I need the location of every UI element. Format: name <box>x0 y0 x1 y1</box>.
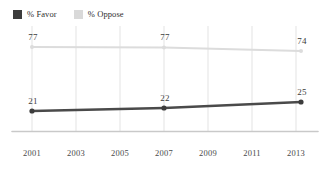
square-swatch-icon <box>13 10 22 19</box>
x-tick-2005: 2005 <box>111 148 129 159</box>
x-tick-2011: 2011 <box>243 148 261 159</box>
x-tick-2007: 2007 <box>155 148 173 159</box>
data-point-oppose-2014 <box>299 49 303 53</box>
data-point-oppose-2001 <box>30 45 34 49</box>
line-chart: % Favor % Oppose <box>0 0 329 169</box>
x-tick-2001: 2001 <box>23 148 41 159</box>
x-tick-2003: 2003 <box>67 148 85 159</box>
data-label-oppose-2014: 74 <box>297 36 306 46</box>
plot-area: 77 77 74 21 22 25 <box>0 26 329 141</box>
data-label-oppose-2001: 77 <box>28 32 37 42</box>
x-axis-tick-labels: 2001 2003 2005 2007 2009 2011 2013 <box>0 148 329 162</box>
data-point-favor-2007 <box>161 105 166 110</box>
data-label-oppose-2007: 77 <box>160 32 169 42</box>
data-label-favor-2014: 25 <box>297 87 306 97</box>
square-swatch-icon <box>74 10 83 19</box>
data-point-favor-2014 <box>298 99 303 104</box>
plot-svg <box>0 26 329 141</box>
x-tick-2009: 2009 <box>199 148 217 159</box>
legend-item-favor[interactable]: % Favor <box>13 7 57 21</box>
x-tick-2013: 2013 <box>287 148 305 159</box>
data-point-favor-2001 <box>29 108 34 113</box>
legend-label-favor: % Favor <box>27 9 57 19</box>
data-point-oppose-2007 <box>162 46 166 50</box>
series-line-oppose <box>30 45 303 53</box>
legend-label-oppose: % Oppose <box>88 9 124 19</box>
data-label-favor-2007: 22 <box>160 93 169 103</box>
data-label-favor-2001: 21 <box>28 96 37 106</box>
chart-legend: % Favor % Oppose <box>13 7 124 21</box>
legend-item-oppose[interactable]: % Oppose <box>74 7 124 21</box>
